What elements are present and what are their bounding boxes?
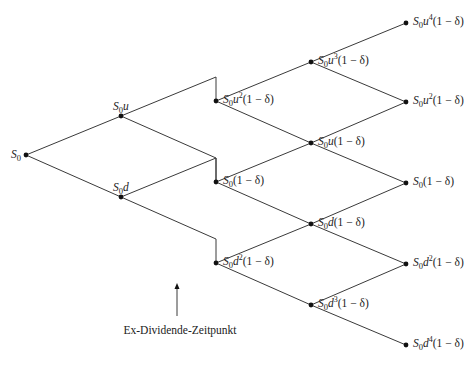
tree-edge <box>121 158 216 197</box>
tree-node-dot <box>309 60 314 65</box>
tree-node-dot <box>309 303 314 308</box>
node-labels: S0S0uS0dS0u2(1 − δ)S0(1 − δ)S0d2(1 − δ)S… <box>11 13 464 352</box>
tree-edge <box>121 77 216 116</box>
tree-node-dot <box>404 181 409 186</box>
tree-node-dot <box>404 21 409 26</box>
node-label: S0u2(1 − δ) <box>413 92 464 109</box>
tree-edge <box>26 116 121 155</box>
binomial-tree-diagram: S0S0uS0dS0u2(1 − δ)S0(1 − δ)S0d2(1 − δ)S… <box>0 0 475 366</box>
node-label: S0u2(1 − δ) <box>223 91 274 108</box>
node-label: S0d <box>113 181 129 196</box>
tree-edge <box>121 116 216 182</box>
node-label: S0u4(1 − δ) <box>413 13 464 30</box>
node-label: S0d3(1 − δ) <box>318 295 369 312</box>
tree-node-dot <box>404 262 409 267</box>
tree-edge <box>26 155 121 197</box>
node-label: S0 <box>11 148 21 163</box>
tree-node-dot <box>404 343 409 348</box>
tree-node-dot <box>214 261 219 266</box>
ex-dividend-annotation: Ex-Dividende-Zeitpunkt <box>123 283 237 337</box>
tree-edge <box>121 197 216 263</box>
node-label: S0u <box>113 100 129 115</box>
tree-node-dot <box>214 99 219 104</box>
arrow-up-icon <box>175 283 180 289</box>
tree-node-dot <box>309 222 314 227</box>
tree-node-dot <box>214 180 219 185</box>
tree-node-dot <box>309 141 314 146</box>
tree-node-dot <box>404 100 409 105</box>
node-label: S0(1 − δ) <box>413 175 454 190</box>
node-label: S0d2(1 − δ) <box>223 253 274 270</box>
ex-dividend-label: Ex-Dividende-Zeitpunkt <box>123 324 237 337</box>
node-label: S0u3(1 − δ) <box>318 52 369 69</box>
tree-node-dot <box>24 153 29 158</box>
node-label: S0d4(1 − δ) <box>413 335 464 352</box>
node-label: S0d2(1 − δ) <box>413 254 464 271</box>
